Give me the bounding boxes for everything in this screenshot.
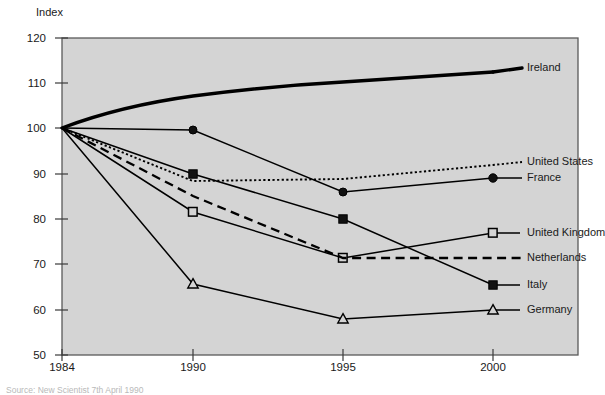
marker-france-1990 xyxy=(189,126,197,134)
series-label-italy: Italy xyxy=(527,278,547,290)
marker-italy-1990 xyxy=(189,170,197,178)
series-label-france: France xyxy=(527,171,561,183)
plot-background xyxy=(62,38,578,355)
series-label-germany: Germany xyxy=(527,303,572,315)
marker-france-2000 xyxy=(489,174,497,182)
marker-uk-1990 xyxy=(189,208,198,217)
series-label-united-states: United States xyxy=(527,155,593,167)
marker-italy-2000 xyxy=(489,281,497,289)
series-label-netherlands: Netherlands xyxy=(527,251,586,263)
marker-uk-2000 xyxy=(489,229,498,238)
series-label-united-kingdom: United Kingdom xyxy=(527,226,605,238)
series-label-ireland: Ireland xyxy=(527,61,561,73)
marker-italy-1995 xyxy=(339,215,347,223)
source-note: Source: New Scientist 7th April 1990 xyxy=(6,385,144,395)
marker-france-1995 xyxy=(339,188,347,196)
